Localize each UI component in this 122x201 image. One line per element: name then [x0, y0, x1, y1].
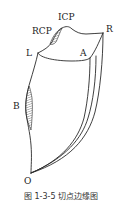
label-rcp: RCP [32, 27, 52, 36]
a-r-edge [90, 33, 103, 58]
label-l: L [26, 49, 32, 58]
right-inner-line [31, 56, 96, 173]
label-b: B [13, 102, 20, 111]
figure-caption: 图 1-3-5 切点边缘图 [0, 193, 122, 201]
label-icp: ICP [58, 13, 75, 22]
rcp-hatched-area [50, 28, 62, 44]
label-r: R [106, 25, 113, 34]
label-a: A [80, 49, 87, 58]
b-hatched-area [26, 86, 33, 130]
label-o: O [24, 177, 31, 186]
